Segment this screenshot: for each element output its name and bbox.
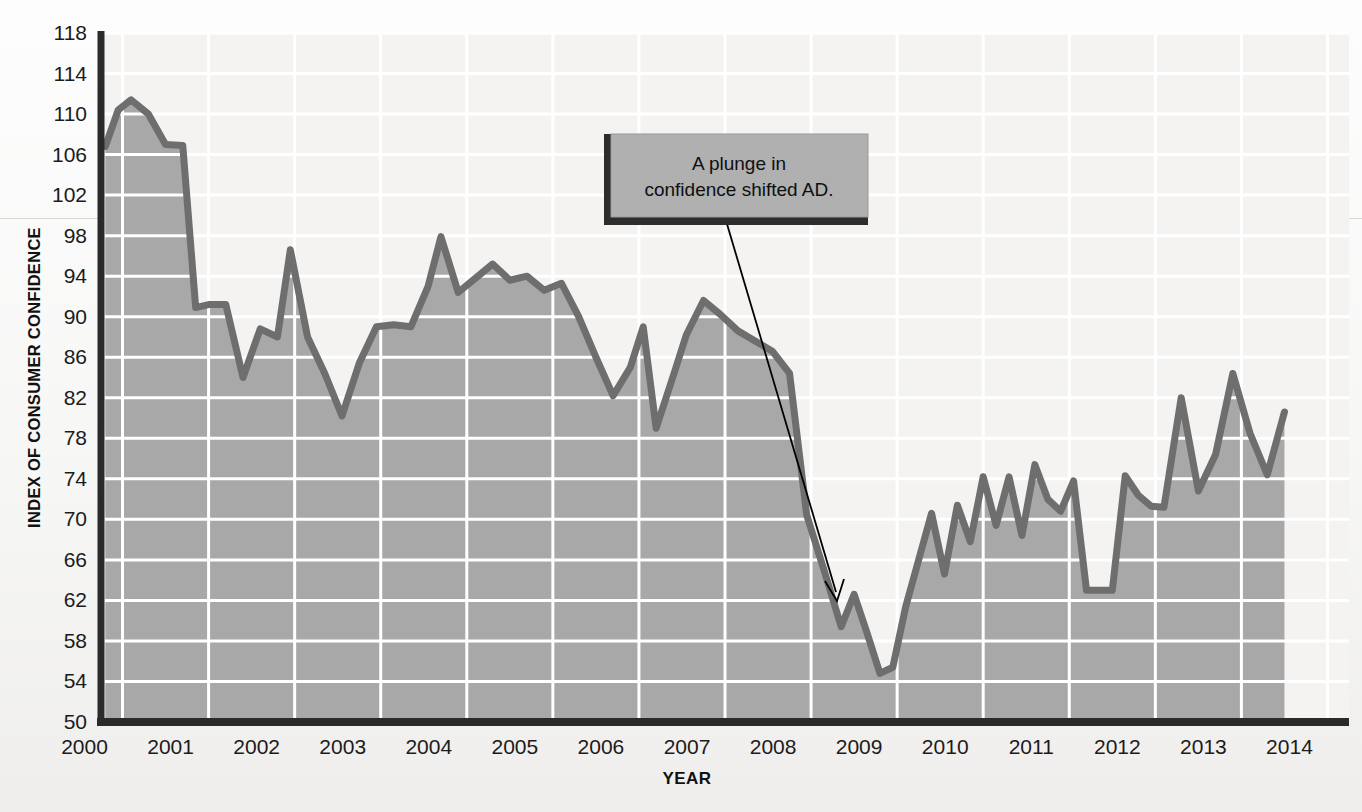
y-tick-label-106: 106: [52, 143, 87, 166]
consumer-confidence-chart: 5054586266707478828690949810210611011411…: [0, 0, 1362, 812]
y-tick-label-58: 58: [64, 629, 87, 652]
y-tick-label-102: 102: [52, 183, 87, 206]
x-tick-label-2006: 2006: [578, 735, 625, 758]
x-tick-label-2003: 2003: [319, 735, 366, 758]
y-tick-label-94: 94: [64, 264, 88, 287]
x-tick-label-2009: 2009: [836, 735, 883, 758]
x-tick-label-2000: 2000: [61, 735, 108, 758]
callout-line-1: A plunge in: [692, 153, 786, 174]
y-tick-label-86: 86: [64, 345, 87, 368]
x-tick-label-2013: 2013: [1180, 735, 1227, 758]
y-tick-label-66: 66: [64, 548, 87, 571]
x-tick-label-2008: 2008: [750, 735, 797, 758]
x-tick-label-2007: 2007: [664, 735, 711, 758]
x-tick-label-2010: 2010: [922, 735, 969, 758]
y-tick-labels: 5054586266707478828690949810210611011411…: [52, 21, 87, 733]
y-tick-label-62: 62: [64, 588, 87, 611]
chart-figure: 5054586266707478828690949810210611011411…: [0, 0, 1362, 812]
x-tick-label-2001: 2001: [147, 735, 194, 758]
x-tick-label-2002: 2002: [233, 735, 280, 758]
annotation-callout: A plunge in confidence shifted AD.: [604, 134, 868, 225]
callout-line-2: confidence shifted AD.: [644, 179, 833, 200]
callout-box: [611, 134, 868, 217]
y-tick-label-98: 98: [64, 224, 87, 247]
x-tick-label-2004: 2004: [405, 735, 452, 758]
y-tick-label-118: 118: [54, 21, 87, 44]
x-tick-label-2011: 2011: [1009, 735, 1054, 758]
y-tick-label-50: 50: [64, 710, 87, 733]
x-tick-label-2005: 2005: [492, 735, 539, 758]
y-tick-label-110: 110: [54, 102, 87, 125]
y-axis-title: INDEX OF CONSUMER CONFIDENCE: [25, 227, 43, 528]
x-tick-labels: 2000200120022003200420052006200720082009…: [61, 735, 1313, 758]
y-tick-label-78: 78: [64, 426, 87, 449]
y-tick-label-90: 90: [64, 305, 87, 328]
y-tick-label-82: 82: [64, 386, 87, 409]
x-axis-title: YEAR: [663, 769, 712, 788]
y-tick-label-114: 114: [54, 62, 88, 85]
y-tick-label-54: 54: [64, 669, 88, 692]
y-tick-label-74: 74: [64, 467, 88, 490]
y-tick-label-70: 70: [64, 507, 87, 530]
x-tick-label-2014: 2014: [1266, 735, 1313, 758]
x-tick-label-2012: 2012: [1094, 735, 1141, 758]
